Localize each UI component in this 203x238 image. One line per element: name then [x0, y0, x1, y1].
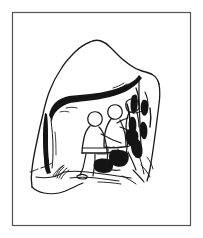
- drawing-canvas: [0, 0, 203, 238]
- illustration-frame: Line drawing of three human figures sitt…: [0, 0, 203, 238]
- page-background: [0, 0, 203, 238]
